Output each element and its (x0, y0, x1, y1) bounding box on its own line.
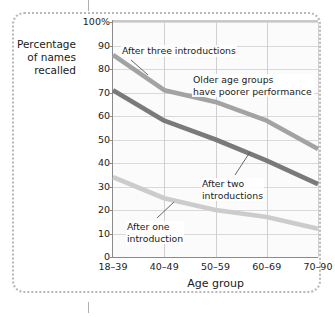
x-axis-line (112, 257, 318, 258)
annotation-after-two-introductions: After two introductions (201, 178, 264, 201)
annotation-after-one-introduction: After one introduction (126, 221, 184, 244)
y-tick-mark (109, 257, 113, 258)
y-axis-title-line-3: recalled (14, 64, 76, 77)
y-axis-title-line-2: of names (14, 51, 76, 64)
y-tick-label: 40 (76, 158, 110, 168)
x-axis-title: Age group (113, 277, 318, 290)
x-tick-label: 60–69 (252, 261, 281, 272)
annotation-older-age-groups: Older age groups have poorer performance (192, 74, 314, 97)
y-tick-label: 10 (76, 229, 110, 239)
chart-figure: Percentage of names recalled 01020304050… (0, 0, 335, 317)
y-tick-mark (109, 69, 113, 70)
y-tick-label: 30 (76, 182, 110, 192)
annotation-two-line-1: After two (202, 178, 263, 190)
y-tick-mark (109, 22, 113, 23)
y-tick-label: 90 (76, 41, 110, 51)
series-line (113, 55, 318, 149)
annotation-after-three-introductions: After three introductions (121, 45, 237, 57)
x-tick-label: 40–49 (150, 261, 179, 272)
y-tick-mark (109, 210, 113, 211)
y-tick-label: 60 (76, 111, 110, 121)
y-tick-label: 20 (76, 205, 110, 215)
registration-mark-top (88, 0, 89, 11)
y-tick-mark (109, 93, 113, 94)
annotation-one-line-1: After one (127, 221, 183, 233)
y-tick-mark (109, 163, 113, 164)
y-tick-mark (109, 140, 113, 141)
y-tick-mark (109, 187, 113, 188)
y-axis-title: Percentage of names recalled (14, 38, 76, 77)
x-tick-label: 18–39 (99, 261, 128, 272)
x-tick-label: 50–59 (201, 261, 230, 272)
y-tick-mark (109, 46, 113, 47)
y-tick-label: 70 (76, 88, 110, 98)
annotation-three-line-1: After three introductions (122, 45, 236, 57)
annotation-older-line-1: Older age groups (193, 74, 313, 86)
gridline-vertical (318, 22, 319, 257)
y-tick-mark (109, 234, 113, 235)
annotation-one-line-2: introduction (127, 233, 183, 245)
y-axis-title-line-1: Percentage (14, 38, 76, 51)
registration-mark-bottom (88, 302, 89, 313)
annotation-older-line-2: have poorer performance (193, 86, 313, 98)
y-tick-label: 100% (76, 17, 110, 27)
y-tick-label: 50 (76, 135, 110, 145)
x-tick-label: 70–90 (304, 261, 333, 272)
y-tick-mark (109, 116, 113, 117)
y-tick-label: 80 (76, 64, 110, 74)
annotation-two-line-2: introductions (202, 190, 263, 202)
